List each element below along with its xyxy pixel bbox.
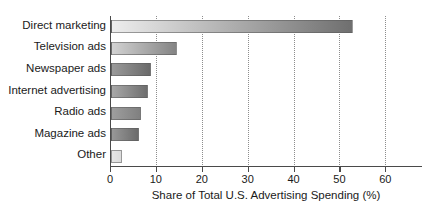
category-axis-labels: Direct marketing Television ads Newspape… <box>0 16 106 167</box>
category-label: Radio ads <box>0 105 106 117</box>
bar <box>111 128 139 141</box>
x-axis-tick-label: 20 <box>196 173 208 185</box>
bar-chart: Direct marketing Television ads Newspape… <box>0 0 439 208</box>
category-label: Television ads <box>0 40 106 52</box>
bar <box>111 42 177 55</box>
bar-row <box>111 81 148 103</box>
x-axis-tick <box>248 167 249 172</box>
x-axis-tick <box>202 167 203 172</box>
x-axis-tick-label: 40 <box>287 173 299 185</box>
category-label: Direct marketing <box>0 19 106 31</box>
category-label: Newspaper ads <box>0 62 106 74</box>
bar <box>111 150 122 163</box>
x-axis-tick <box>110 167 111 172</box>
x-axis-tick <box>156 167 157 172</box>
bar-row <box>111 124 139 146</box>
bar-row <box>111 16 353 38</box>
bar-row <box>111 145 122 167</box>
bar <box>111 20 353 33</box>
bar-series <box>111 16 422 167</box>
y-axis-line <box>110 16 111 167</box>
x-axis-tick-label: 0 <box>107 173 113 185</box>
bar-row <box>111 38 177 60</box>
bar-row <box>111 59 151 81</box>
x-axis-tick-label: 10 <box>150 173 162 185</box>
bar <box>111 63 151 76</box>
bar <box>111 85 148 98</box>
x-axis-title: Share of Total U.S. Advertising Spending… <box>110 189 422 201</box>
category-label: Magazine ads <box>0 127 106 139</box>
x-axis-tick <box>339 167 340 172</box>
x-axis-tick-label: 60 <box>379 173 391 185</box>
x-axis-tick <box>385 167 386 172</box>
bar <box>111 107 141 120</box>
category-label: Internet advertising <box>0 84 106 96</box>
x-axis-tick-label: 50 <box>333 173 345 185</box>
bar-row <box>111 102 141 124</box>
x-axis-tick <box>294 167 295 172</box>
category-label: Other <box>0 148 106 160</box>
x-axis-tick-label: 30 <box>242 173 254 185</box>
